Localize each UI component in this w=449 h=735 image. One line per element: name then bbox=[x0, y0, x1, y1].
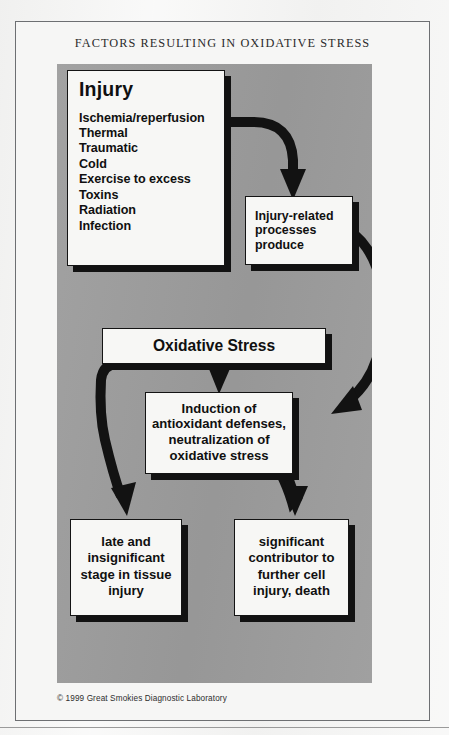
node-text-line: Injury-related bbox=[255, 209, 352, 223]
node-text-line: processes bbox=[255, 223, 352, 237]
node-injury-related-processes: Injury-related processes produce bbox=[245, 196, 353, 265]
arrow-oxidative-stress-to-induction bbox=[207, 364, 232, 394]
node-injury: Injury Ischemia/reperfusion Thermal Trau… bbox=[67, 70, 225, 266]
node-text-line: late and bbox=[101, 535, 150, 550]
node-text-line: oxidative stress bbox=[170, 449, 269, 464]
list-item: Infection bbox=[79, 219, 224, 233]
arrow-injury-to-injury-related bbox=[219, 122, 306, 200]
diagram-gray-panel: Injury Ischemia/reperfusion Thermal Trau… bbox=[57, 64, 372, 683]
arrow-induction-to-significant-contributor bbox=[280, 472, 308, 516]
node-text-line: further cell bbox=[258, 568, 326, 583]
node-text-line: neutralization of bbox=[168, 433, 269, 448]
node-text-line: produce bbox=[255, 238, 352, 252]
list-item: Exercise to excess bbox=[79, 172, 224, 186]
node-text-line: contributor to bbox=[249, 551, 335, 566]
page-bottom-rule bbox=[0, 727, 449, 728]
node-late-insignificant-stage: late and insignificant stage in tissue i… bbox=[70, 519, 182, 616]
node-oxidative-stress: Oxidative Stress bbox=[102, 328, 326, 364]
node-text-line: insignificant bbox=[87, 551, 164, 566]
copyright-note: © 1999 Great Smokies Diagnostic Laborato… bbox=[57, 694, 227, 703]
node-text-line: injury, death bbox=[253, 584, 330, 599]
list-item: Cold bbox=[79, 157, 224, 171]
node-text-line: injury bbox=[108, 584, 144, 599]
list-item: Traumatic bbox=[79, 141, 224, 155]
arrow-oxidative-stress-to-late-insignificant bbox=[101, 364, 137, 516]
node-text-line: stage in tissue bbox=[81, 568, 172, 583]
figure-title: FACTORS RESULTING IN OXIDATIVE STRESS bbox=[15, 36, 430, 51]
list-item: Ischemia/reperfusion bbox=[79, 111, 224, 125]
injury-heading: Injury bbox=[79, 80, 224, 100]
node-text-line: significant bbox=[259, 535, 324, 550]
node-text-line: Induction of bbox=[182, 402, 257, 417]
node-text-line: antioxidant defenses, bbox=[152, 417, 286, 432]
injury-factor-list: Ischemia/reperfusion Thermal Traumatic C… bbox=[79, 111, 224, 235]
node-significant-contributor: significant contributor to further cell … bbox=[234, 519, 349, 616]
list-item: Toxins bbox=[79, 188, 224, 202]
list-item: Thermal bbox=[79, 126, 224, 140]
node-induction-antioxidant-defenses: Induction of antioxidant defenses, neutr… bbox=[145, 392, 293, 474]
list-item: Radiation bbox=[79, 203, 224, 217]
node-text-line: Oxidative Stress bbox=[153, 337, 275, 355]
figure-page: FACTORS RESULTING IN OXIDATIVE STRESS bbox=[0, 0, 449, 735]
